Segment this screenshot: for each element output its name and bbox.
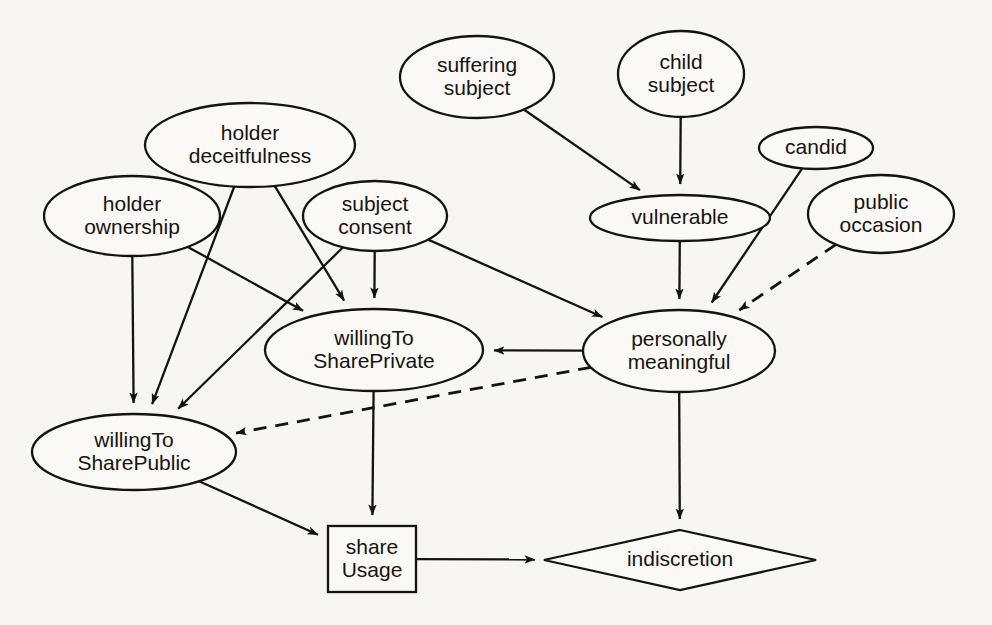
node-willing_share_private[interactable]: willingToSharePrivate	[265, 309, 483, 391]
edge-public_occasion-to-personally_meaningful	[739, 245, 836, 311]
indiscretion-shape[interactable]	[544, 530, 816, 590]
edge-child_subject-to-vulnerable	[680, 117, 681, 184]
node-vulnerable[interactable]: vulnerable	[590, 195, 770, 241]
share_usage-shape[interactable]	[328, 526, 416, 592]
edge-willing_share_public-to-share_usage	[199, 481, 318, 534]
node-suffering_subject[interactable]: sufferingsubject	[400, 36, 554, 118]
edge-willing_share_private-to-share_usage	[372, 391, 373, 515]
willing_share_public-shape[interactable]	[32, 414, 236, 490]
diagram-canvas: sufferingsubjectchildsubjectholderdeceit…	[0, 0, 992, 625]
personally_meaningful-shape[interactable]	[583, 310, 775, 392]
holder_deceitfulness-shape[interactable]	[145, 103, 355, 187]
willing_share_private-shape[interactable]	[265, 309, 483, 391]
edge-personally_meaningful-to-indiscretion	[679, 392, 680, 519]
edge-subject_consent-to-personally_meaningful	[428, 240, 602, 317]
holder_ownership-shape[interactable]	[44, 176, 220, 256]
edge-holder_ownership-to-willing_share_private	[188, 247, 303, 311]
node-subject_consent[interactable]: subjectconsent	[303, 181, 447, 251]
node-willing_share_public[interactable]: willingToSharePublic	[32, 414, 236, 490]
child_subject-shape[interactable]	[618, 31, 744, 117]
node-holder_ownership[interactable]: holderownership	[44, 176, 220, 256]
node-share_usage[interactable]: shareUsage	[328, 526, 416, 592]
suffering_subject-shape[interactable]	[400, 36, 554, 118]
vulnerable-shape[interactable]	[590, 195, 770, 241]
edge-holder_ownership-to-willing_share_public	[132, 256, 133, 403]
node-public_occasion[interactable]: publicoccasion	[808, 175, 954, 253]
node-child_subject[interactable]: childsubject	[618, 31, 744, 117]
subject_consent-shape[interactable]	[303, 181, 447, 251]
node-candid[interactable]: candid	[759, 127, 873, 169]
node-indiscretion[interactable]: indiscretion	[544, 530, 816, 590]
node-holder_deceitfulness[interactable]: holderdeceitfulness	[145, 103, 355, 187]
node-personally_meaningful[interactable]: personallymeaningful	[583, 310, 775, 392]
influence-diagram: sufferingsubjectchildsubjectholderdeceit…	[0, 0, 992, 625]
node-layer: sufferingsubjectchildsubjectholderdeceit…	[32, 31, 954, 592]
edge-suffering_subject-to-vulnerable	[524, 110, 640, 191]
public_occasion-shape[interactable]	[808, 175, 954, 253]
candid-shape[interactable]	[759, 127, 873, 169]
